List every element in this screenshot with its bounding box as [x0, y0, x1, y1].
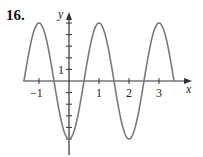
x-tick-label: 2 [126, 86, 132, 100]
x-tick-label: 1 [96, 86, 102, 100]
x-axis-label: x [185, 82, 192, 96]
y-axis [66, 12, 72, 155]
y-tick-label: 1 [58, 63, 64, 77]
x-axis [23, 78, 192, 84]
graph: y x −1 1 2 3 1 [0, 0, 203, 157]
y-axis-label: y [57, 7, 64, 21]
x-tick-label: 3 [156, 86, 162, 100]
y-arrow-icon [66, 12, 72, 20]
x-tick-label: −1 [30, 86, 43, 100]
